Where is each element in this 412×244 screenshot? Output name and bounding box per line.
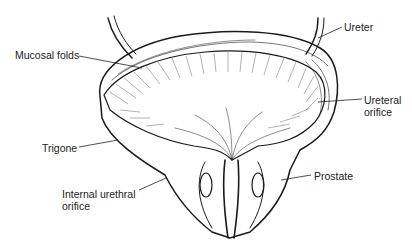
label-mucosal-folds: Mucosal folds xyxy=(15,49,79,61)
prostate-leader xyxy=(281,175,311,180)
bladder-anatomy-figure: Mucosal folds Ureter Ureteralorifice Tri… xyxy=(0,0,412,244)
label-internal-urethral-orifice: Internal urethralorifice xyxy=(62,188,136,212)
trigone-leader xyxy=(79,140,118,147)
label-prostate: Prostate xyxy=(314,170,353,182)
label-trigone: Trigone xyxy=(42,142,77,154)
ureter-leader xyxy=(318,27,342,38)
label-ureteral-orifice: Ureteralorifice xyxy=(364,94,401,118)
label-ureter: Ureter xyxy=(344,21,373,33)
internal-urethral-orifice-leader xyxy=(139,178,166,190)
